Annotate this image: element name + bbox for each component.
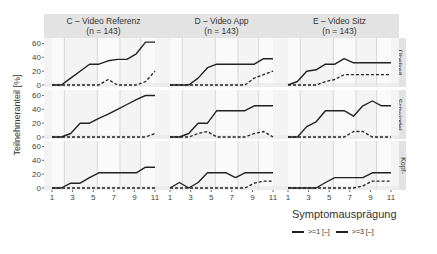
x-tick-label: 9 (250, 193, 255, 200)
x-tick-label: 9 (368, 193, 373, 200)
y-tick-label: 0 (37, 133, 42, 142)
y-tick-label: 60 (32, 91, 41, 100)
column-title: E – Video Sitz (313, 16, 366, 26)
panel-r2-c0 (44, 141, 163, 190)
x-tick-label: 1 (286, 193, 291, 200)
y-axis-label: Teilnehmeranteil [%] (12, 74, 22, 155)
solid-line-swatch-icon (292, 231, 304, 233)
x-tick-label: 5 (327, 193, 332, 200)
column-subtitle: (n = 143) (322, 26, 356, 36)
panel-r1-c1 (162, 90, 281, 139)
x-tick-label: 7 (112, 193, 117, 200)
legend-label-ge1: >=1 [–] (308, 228, 330, 235)
column-title: D – Video App (194, 16, 248, 26)
y-tick-label: 0 (37, 184, 42, 193)
panel-r0-c1 (162, 38, 281, 87)
x-axis: 135791113579111357911Zeit [min] (50, 190, 396, 200)
legend-entry-dashed: >=3 [–] (336, 228, 374, 235)
x-tick-label: 11 (387, 193, 396, 200)
y-tick-label: 20 (32, 67, 41, 76)
x-tick-label: 9 (132, 193, 137, 200)
x-tick-label: 1 (50, 193, 55, 200)
column-title: C – Video Referenz (66, 16, 140, 26)
x-tick-label: 1 (168, 193, 173, 200)
legend-title: Symptomausprägung (292, 208, 397, 220)
column-header-2: E – Video Sitz(n = 143) (280, 14, 399, 38)
legend-entry-solid: >=1 [–] (292, 228, 330, 235)
x-tick-label: 11 (151, 193, 160, 200)
y-tick-label: 20 (32, 119, 41, 128)
x-tick-label: 11 (269, 193, 278, 200)
panel-r1-c2 (280, 90, 399, 139)
facet-line-chart: C – Video Referenz(n = 143)D – Video App… (0, 0, 437, 200)
legend: Symptomausprägung >=1 [–] >=3 [–] (292, 208, 397, 235)
column-subtitle: (n = 143) (86, 26, 120, 36)
x-tick-label: 5 (209, 193, 214, 200)
panel-r0-c2 (280, 38, 399, 87)
y-tick-label: 0 (37, 81, 42, 90)
legend-label-ge3: >=3 [–] (352, 228, 374, 235)
y-axis: 020406002040600204060Teilnehmeranteil [%… (12, 39, 44, 193)
row-label: Kopf- (399, 157, 407, 174)
x-tick-label: 3 (188, 193, 193, 200)
x-tick-label: 3 (70, 193, 75, 200)
panel-r2-c2 (280, 141, 399, 190)
column-subtitle: (n = 143) (204, 26, 238, 36)
dashed-line-swatch-icon (336, 231, 348, 233)
y-tick-label: 60 (32, 142, 41, 151)
y-tick-label: 40 (32, 53, 41, 62)
x-tick-label: 7 (230, 193, 235, 200)
y-tick-label: 20 (32, 170, 41, 179)
panel-r2-c1 (162, 141, 281, 190)
x-tick-label: 7 (348, 193, 353, 200)
column-header-1: D – Video App(n = 143) (162, 14, 281, 38)
panel-r0-c0 (44, 38, 163, 87)
y-tick-label: 40 (32, 105, 41, 114)
x-tick-label: 3 (306, 193, 311, 200)
panel-r1-c0 (44, 90, 163, 139)
y-tick-label: 40 (32, 156, 41, 165)
column-header-0: C – Video Referenz(n = 143) (44, 14, 163, 38)
y-tick-label: 60 (32, 39, 41, 48)
x-tick-label: 5 (91, 193, 96, 200)
